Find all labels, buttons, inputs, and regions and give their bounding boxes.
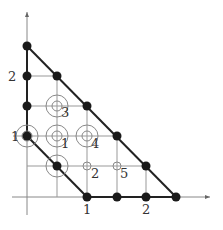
lattice-diagram: 2 1 2 3 1 4 1 2 5	[0, 0, 223, 230]
label-small-2: 2	[91, 166, 99, 181]
label-circle-1-inner: 1	[61, 136, 69, 151]
axis-label-x1: 1	[83, 202, 91, 217]
diagram-canvas: 2 1 2 3 1 4 1 2 5	[0, 0, 223, 230]
label-circle-3: 3	[61, 105, 69, 120]
axis-label-x2: 2	[142, 202, 150, 217]
axis-label-y2: 2	[8, 69, 16, 84]
axes	[12, 12, 210, 215]
label-circle-4: 4	[91, 136, 99, 151]
label-circle-1-left: 1	[11, 129, 19, 144]
label-small-5: 5	[120, 166, 128, 181]
